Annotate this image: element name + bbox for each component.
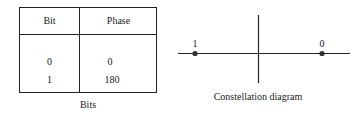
point-label-1: 1 [188,38,202,49]
point-label-0: 0 [315,38,329,49]
constellation-caption: Constellation diagram [198,91,318,102]
point-bit-1 [192,51,197,56]
point-bit-0 [319,51,324,56]
